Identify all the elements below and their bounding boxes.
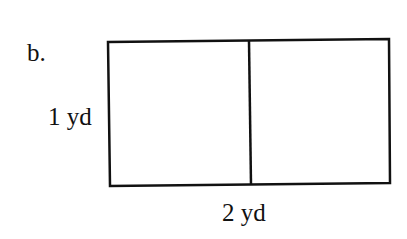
rectangle-diagram xyxy=(0,0,407,239)
